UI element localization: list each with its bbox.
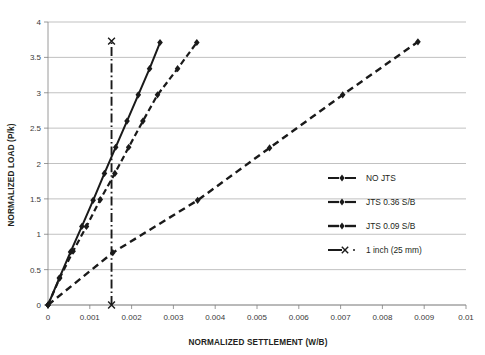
x-axis-tick-label: 0.009 bbox=[414, 313, 435, 322]
x-axis-tick-label: 0 bbox=[46, 313, 51, 322]
y-axis-tick-label: 1 bbox=[37, 230, 42, 239]
legend-label: JTS 0.36 S/B bbox=[366, 197, 416, 207]
y-axis-tick-label: 3.5 bbox=[30, 53, 42, 62]
legend-label: 1 inch (25 mm) bbox=[366, 245, 422, 255]
y-axis-tick-label: 4 bbox=[37, 18, 42, 27]
y-axis-tick-label: 1.5 bbox=[30, 195, 42, 204]
y-axis-tick-label: 2.5 bbox=[30, 124, 42, 133]
y-axis-tick-label: 3 bbox=[37, 89, 42, 98]
x-axis-tick-label: 0.005 bbox=[247, 313, 268, 322]
x-axis-tick-label: 0.006 bbox=[289, 313, 310, 322]
x-axis-tick-label: 0.008 bbox=[372, 313, 393, 322]
y-axis-title: NORMALIZED LOAD (P/k) bbox=[7, 123, 16, 226]
legend-dot bbox=[353, 249, 355, 251]
chart-background bbox=[0, 0, 485, 355]
x-axis-tick-label: 0.01 bbox=[458, 313, 474, 322]
x-axis-title: NORMALIZED SETTLEMENT (W/B) bbox=[188, 338, 327, 347]
legend-label: NO JTS bbox=[366, 173, 396, 183]
x-axis-tick-label: 0.002 bbox=[122, 313, 143, 322]
y-axis-tick-label: 0.5 bbox=[30, 266, 42, 275]
x-axis-tick-label: 0.001 bbox=[80, 313, 101, 322]
y-axis-tick-label: 2 bbox=[37, 160, 42, 169]
x-axis-tick-label: 0.004 bbox=[205, 313, 226, 322]
y-axis-tick-label: 0 bbox=[37, 301, 42, 310]
line-chart: 00.511.522.533.54 00.0010.0020.0030.0040… bbox=[0, 0, 485, 355]
legend-label: JTS 0.09 S/B bbox=[366, 221, 416, 231]
x-axis-tick-label: 0.007 bbox=[331, 313, 352, 322]
x-axis-tick-label: 0.003 bbox=[163, 313, 184, 322]
chart-container: 00.511.522.533.54 00.0010.0020.0030.0040… bbox=[0, 0, 485, 355]
